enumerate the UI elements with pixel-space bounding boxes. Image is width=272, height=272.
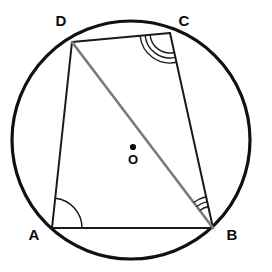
geometry-figure: O A B C D	[0, 0, 272, 272]
vertex-label-B: B	[227, 226, 238, 243]
circumcircle	[12, 21, 250, 259]
angle-mark-A-arc	[55, 198, 82, 228]
centre-label: O	[128, 152, 138, 167]
vertex-label-A: A	[29, 226, 40, 243]
vertex-label-D: D	[56, 12, 67, 29]
angle-mark-A	[55, 198, 82, 228]
geometry-canvas: O A B C D	[0, 0, 272, 272]
vertex-label-C: C	[179, 12, 190, 29]
angle-mark-B-arc	[200, 207, 209, 211]
angle-mark-B-arc	[194, 197, 206, 203]
side-CD	[72, 33, 170, 42]
angle-mark-B-arc	[197, 202, 208, 207]
centre-dot	[130, 144, 136, 150]
